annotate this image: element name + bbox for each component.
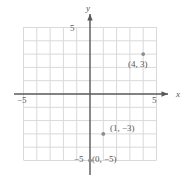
x-axis-tick-label-neg5: −5 <box>17 96 27 105</box>
y-axis-arrow-icon <box>87 14 92 21</box>
data-point-label-1-neg3: (1, −3) <box>110 124 135 133</box>
data-point-1-neg3 <box>101 132 105 136</box>
data-point-label-4-3: (4, 3) <box>128 60 148 69</box>
y-axis-name-label: y <box>86 4 90 13</box>
coordinate-plane-figure: 5 −5 5 −5 y x (4, 3) (1, −3) (0, −5) <box>0 0 190 181</box>
x-axis-tick-label-5: 5 <box>152 96 157 105</box>
x-axis-arrow-icon <box>162 91 169 96</box>
y-axis-tick-label-neg5: −5 <box>74 155 84 164</box>
y-axis-tick-label-5: 5 <box>70 24 75 33</box>
data-point-label-0-neg5: (0, −5) <box>92 155 117 164</box>
x-axis-name-label: x <box>176 90 180 99</box>
data-point-4-3 <box>141 52 145 56</box>
